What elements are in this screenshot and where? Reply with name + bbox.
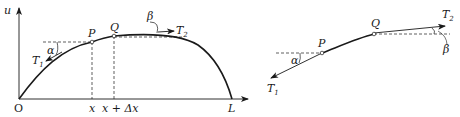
t2-label: T2 (176, 24, 188, 39)
point-p (90, 40, 94, 44)
point-p-right (320, 51, 324, 55)
t2-arrow-icon (158, 31, 174, 32)
alpha-arc (56, 42, 58, 55)
alpha-arc-right (299, 53, 300, 63)
beta-arc-right (432, 28, 435, 34)
point-q-right (372, 32, 376, 36)
u-axis-label: u (4, 4, 11, 17)
beta-label-right: β (442, 43, 449, 56)
point-q (112, 34, 116, 38)
origin-label: O (14, 102, 23, 115)
end-label: L (227, 102, 235, 115)
x-dx-tick-label: x + Δx (102, 102, 139, 115)
alpha-label-right: α (291, 54, 299, 67)
t2-label-right: T2 (442, 8, 454, 23)
point-q-label: Q (110, 21, 119, 34)
alpha-label: α (47, 44, 55, 57)
string-tension-diagram: u O L P Q x x + Δx α T1 β T2 P Q α T1 (0, 0, 460, 117)
right-figure: P Q α T1 T2 β (267, 8, 454, 97)
t1-label: T1 (32, 54, 44, 69)
t1-label-right: T1 (267, 82, 279, 97)
x-tick-label: x (89, 102, 96, 115)
beta-arc (150, 22, 158, 33)
point-p-label-right: P (317, 37, 326, 50)
point-p-label: P (87, 27, 96, 40)
string-segment (322, 34, 374, 53)
left-figure: u O L P Q x x + Δx α T1 β T2 (4, 4, 248, 115)
beta-label: β (146, 10, 153, 23)
point-q-label-right: Q (371, 17, 380, 30)
